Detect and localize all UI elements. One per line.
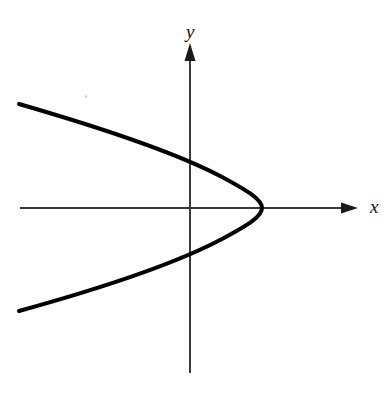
x-axis-arrowhead-icon: [341, 203, 358, 214]
figure-canvas: y x: [0, 0, 384, 393]
y-axis-arrowhead-icon: [185, 43, 196, 61]
x-axis-label: x: [369, 196, 379, 217]
y-axis-label: y: [184, 21, 195, 42]
scan-speck-artifact: [85, 95, 87, 98]
coordinate-plot: y x: [0, 0, 384, 393]
